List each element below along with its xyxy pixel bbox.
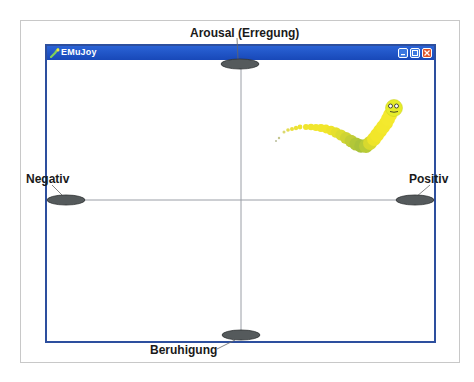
emotion-space-canvas[interactable] — [0, 0, 474, 382]
positive-label: Positiv — [409, 172, 448, 186]
emotion-worm-cursor[interactable] — [275, 100, 403, 154]
positive-handle[interactable] — [396, 195, 434, 205]
arousal-label: Arousal (Erregung) — [190, 26, 299, 40]
negative-handle[interactable] — [47, 195, 85, 205]
negative-label: Negativ — [26, 172, 69, 186]
arousal-handle[interactable] — [221, 59, 259, 69]
calm-label: Beruhigung — [150, 343, 217, 357]
calm-handle[interactable] — [222, 330, 260, 340]
worm-head — [386, 100, 403, 117]
